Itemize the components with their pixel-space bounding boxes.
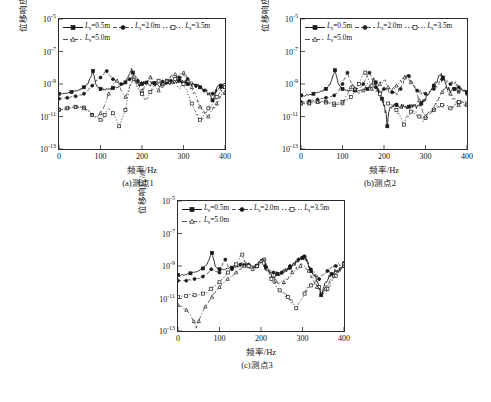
series-marker: [203, 89, 206, 92]
series-marker: [409, 110, 412, 113]
series-marker: [210, 287, 213, 290]
panel-a: 位移响应/m 10-510-710-910-1110-13 Ls=0.5mLs=…: [18, 14, 232, 192]
series-marker: [215, 96, 218, 99]
series-marker: [193, 278, 196, 281]
y-tick-label: 10-11: [40, 110, 56, 122]
series-marker: [111, 112, 114, 115]
series-marker: [182, 71, 185, 74]
x-tick-label: 200: [378, 152, 390, 161]
series-marker: [453, 87, 456, 90]
series-marker: [235, 263, 238, 266]
series-marker: [190, 86, 193, 89]
series-marker: [386, 125, 389, 128]
x-tick-label: 100: [337, 152, 349, 161]
plot-area-a: 位移响应/m 10-510-710-910-1110-13 Ls=0.5mLs=…: [18, 14, 232, 192]
series-marker: [333, 94, 336, 97]
series-marker: [201, 267, 204, 270]
series-marker: [424, 92, 427, 95]
series-marker: [141, 92, 144, 95]
axes-c: [177, 200, 345, 332]
series-marker: [395, 84, 398, 87]
series-marker: [418, 115, 421, 118]
series-marker: [226, 271, 229, 274]
series-marker: [278, 289, 281, 292]
x-tick-label: 300: [297, 334, 309, 343]
series-marker: [201, 292, 204, 295]
series-marker: [241, 253, 244, 256]
series-marker: [349, 96, 352, 99]
y-tick-label: 10-13: [159, 324, 175, 336]
series-marker: [224, 86, 226, 89]
series-marker: [301, 94, 303, 97]
series-marker: [407, 74, 410, 77]
series-marker: [309, 284, 312, 287]
y-tick-label: 10-7: [162, 227, 175, 239]
series-marker: [136, 79, 139, 82]
plot-area-c: 位移响应/m 10-510-710-910-1110-13 Ls=0.5mLs=…: [137, 196, 351, 374]
y-tick-label: 10-13: [282, 142, 298, 154]
series-marker: [157, 89, 160, 92]
series-marker: [215, 102, 218, 105]
series-svg-a: [59, 19, 225, 149]
y-tick-label: 10-11: [159, 292, 175, 304]
series-marker: [346, 71, 349, 74]
series-svg-c: [178, 201, 344, 331]
series-marker: [378, 92, 381, 95]
series-marker: [131, 71, 134, 74]
series-marker: [274, 279, 277, 282]
x-tick-label: 100: [214, 334, 226, 343]
series-marker: [432, 107, 435, 110]
series-marker: [432, 84, 435, 87]
series-marker: [272, 271, 275, 274]
series-marker: [449, 107, 452, 110]
series-marker: [282, 281, 285, 284]
panel-c: 位移响应/m 10-510-710-910-1110-13 Ls=0.5mLs=…: [137, 196, 351, 374]
series-marker: [383, 87, 386, 90]
series-marker: [366, 87, 369, 90]
series-marker: [210, 268, 213, 271]
y-tick-label: 10-5: [162, 194, 175, 206]
series-marker: [362, 83, 365, 86]
series-marker: [199, 118, 202, 121]
series-marker: [358, 83, 361, 86]
series-marker: [120, 83, 123, 86]
series-marker: [91, 84, 94, 87]
series-marker: [441, 78, 444, 81]
series-marker: [239, 263, 242, 266]
series-marker: [334, 69, 337, 72]
series-marker: [111, 78, 114, 81]
series-marker: [107, 92, 110, 95]
series-marker: [259, 259, 262, 262]
series-marker: [364, 71, 367, 74]
series-marker: [290, 271, 293, 274]
series-marker: [326, 269, 329, 272]
y-tick-label: 10-5: [43, 12, 56, 24]
series-marker: [124, 109, 127, 112]
x-tick-label: 0: [299, 152, 303, 161]
series-marker: [286, 295, 289, 298]
x-tick-label: 400: [338, 334, 350, 343]
series-marker: [178, 279, 180, 282]
series-marker: [115, 79, 118, 82]
y-tick-label: 10-9: [43, 77, 56, 89]
x-tick-label: 200: [255, 334, 267, 343]
series-marker: [59, 92, 61, 95]
y-tick-label: 10-13: [40, 142, 56, 154]
series-marker: [312, 92, 315, 95]
series-marker: [211, 92, 214, 95]
y-axis-ticks-a: 10-510-710-910-1110-13: [26, 14, 56, 154]
x-axis-title-c: 频率/Hz: [177, 345, 345, 357]
series-marker: [149, 76, 152, 79]
y-tick-label: 10-11: [282, 110, 298, 122]
panel-b: 位移响应/m 10-510-710-910-1110-13 Ls=0.5mLs=…: [260, 14, 474, 192]
series-marker: [99, 118, 102, 121]
series-marker: [161, 80, 164, 83]
series-marker: [420, 102, 423, 105]
series-marker: [230, 268, 233, 271]
series-marker: [407, 105, 410, 108]
series-marker: [178, 295, 180, 298]
series-marker: [341, 83, 344, 86]
series-marker: [182, 83, 185, 86]
series-marker: [174, 78, 177, 81]
series-marker: [432, 87, 435, 90]
